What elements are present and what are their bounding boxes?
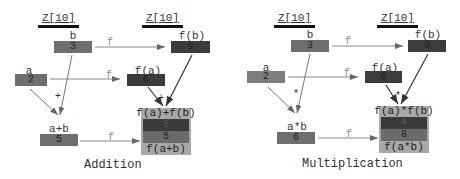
codomain-header: Z[10] [377,13,418,28]
result-top-label: f(a)*f(b) [372,106,436,117]
node-fb-value: 9 [171,41,210,53]
f-label-b: f [107,37,113,48]
domain-header: Z[10] [274,13,315,28]
node-fb-value: 9 [408,40,446,52]
f-label-ab: f [346,129,352,140]
node-ab-value: 5 [40,134,78,146]
result-top-label: f(a)+f(b) [134,108,198,119]
node-a-value: 2 [247,71,285,83]
op-label-left: + [55,91,61,102]
result-stack: f(a)+f(b) 5 5 f(a+b) [141,108,191,155]
op-label-left: * [293,89,299,100]
f-label-a: f [106,70,112,81]
result-stack: f(a)*f(b) 4 8 f(a*b) [379,106,429,153]
node-b-value: 3 [291,40,329,52]
node-fa-value: 6 [127,74,165,86]
f-label-b: f [345,36,351,47]
result-value-bottom: 8 [381,129,427,141]
result-value-top: 5 [143,119,189,131]
domain-header: Z[10] [38,13,79,28]
op-label-right: + [158,93,164,104]
f-label-a: f [344,68,350,79]
codomain-header: Z[10] [142,13,183,28]
node-a-value: 2 [15,74,47,86]
node-b-value: 3 [54,41,92,53]
f-label-ab: f [108,132,114,143]
multiplication-diagram: Z[10] Z[10] b 3 a 2 f(b) 9 f(a) 6 f f f … [230,0,460,179]
diagram-caption: Addition [84,158,142,172]
result-bottom-label: f(a+b) [141,143,191,155]
node-ab-value: 6 [277,132,315,144]
addition-arrows [0,0,230,179]
node-fa-value: 6 [365,71,402,83]
result-value-bottom: 5 [143,131,189,143]
addition-diagram: Z[10] Z[10] b 3 a 2 f(b) 9 f(a) 6 f f f … [0,0,230,179]
result-bottom-label: f(a*b) [379,141,429,153]
result-value-top: 4 [381,117,427,129]
diagram-caption: Multiplication [302,157,403,171]
op-label-right: * [395,91,401,102]
